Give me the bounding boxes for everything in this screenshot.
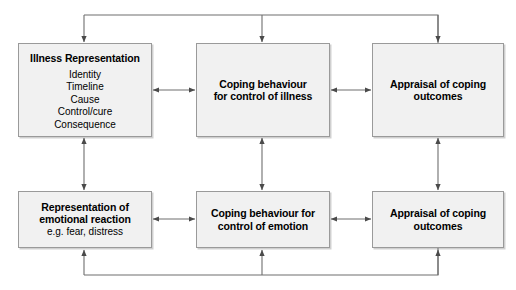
node-title-line1: Coping behaviour for — [211, 207, 315, 220]
node-subtitle: e.g. fear, distress — [47, 226, 123, 239]
node-item-list: Identity Timeline Cause Control/cure Con… — [54, 69, 116, 132]
list-item: Timeline — [54, 81, 116, 94]
list-item: Identity — [54, 69, 116, 82]
node-title-line1: Coping behaviour — [219, 78, 307, 91]
node-representation-of-emotional-reaction[interactable]: Representation of emotional reaction e.g… — [18, 191, 152, 248]
node-title-line2: emotional reaction — [39, 213, 131, 226]
node-title-line2: outcomes — [414, 220, 463, 233]
node-coping-behaviour-illness[interactable]: Coping behaviour for control of illness — [196, 43, 330, 137]
node-title-line2: for control of illness — [214, 90, 313, 103]
node-coping-behaviour-emotion[interactable]: Coping behaviour for control of emotion — [196, 191, 330, 248]
node-illness-representation[interactable]: Illness Representation Identity Timeline… — [18, 43, 152, 137]
node-title-line1: Appraisal of coping — [390, 207, 486, 220]
node-title-line1: Representation of — [41, 201, 129, 214]
node-appraisal-of-coping-outcomes-bottom[interactable]: Appraisal of coping outcomes — [372, 191, 504, 248]
node-title-line1: Appraisal of coping — [390, 78, 486, 91]
list-item: Consequence — [54, 119, 116, 132]
list-item: Cause — [54, 94, 116, 107]
node-appraisal-of-coping-outcomes-top[interactable]: Appraisal of coping outcomes — [372, 43, 504, 137]
feedback-bus-top-rail — [84, 15, 438, 43]
node-title: Illness Representation — [30, 52, 140, 65]
node-title-line2: control of emotion — [218, 220, 308, 233]
node-title-line2: outcomes — [414, 90, 463, 103]
feedback-bus-bottom-rail — [84, 248, 438, 275]
diagram-canvas: Illness Representation Identity Timeline… — [0, 0, 516, 290]
list-item: Control/cure — [54, 106, 116, 119]
